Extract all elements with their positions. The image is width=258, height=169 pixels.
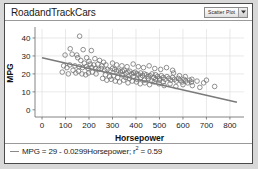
chart-plot-area: 0102030400100200300400500600700800Horsep… <box>5 21 252 143</box>
legend-equation-label: MPG = 29 - 0.0299Horsepower; r2 = 0.59 <box>22 147 162 156</box>
scatter-point <box>63 53 68 58</box>
legend-item-fit-line: MPG = 29 - 0.0299Horsepower; r2 = 0.59 <box>10 147 162 156</box>
x-axis-tick-label: 400 <box>129 121 143 130</box>
scatter-point <box>141 65 146 70</box>
line-swatch-icon <box>10 151 19 152</box>
scatter-point <box>158 67 163 72</box>
scatter-plot-svg[interactable]: 0102030400100200300400500600700800Horsep… <box>5 21 252 143</box>
scatter-point <box>93 56 98 61</box>
y-axis-tick-label: 20 <box>22 70 31 79</box>
scatter-point <box>131 62 136 67</box>
scatter-point <box>120 64 125 69</box>
page-title: RoadandTrackCars <box>11 7 96 18</box>
scatter-point <box>152 66 157 71</box>
scatter-point <box>81 47 86 52</box>
chart-header: RoadandTrackCars Scatter Plot <box>5 4 252 21</box>
x-axis-tick-label: 300 <box>106 121 120 130</box>
x-axis-title: Horsepower <box>115 133 165 143</box>
scatter-point <box>136 64 141 69</box>
scatter-point <box>89 48 94 53</box>
scatter-point <box>170 68 175 73</box>
chart-window: RoadandTrackCars Scatter Plot 0102030400… <box>4 3 253 164</box>
scatter-point <box>147 64 152 69</box>
scatter-point <box>195 79 200 84</box>
scatter-point <box>198 85 203 90</box>
scatter-point <box>75 53 80 58</box>
scatter-points-group <box>60 34 217 90</box>
y-axis-tick-label: 0 <box>26 106 31 115</box>
y-axis-tick-label: 40 <box>22 34 31 43</box>
scatter-point <box>201 81 206 86</box>
y-axis-tick-label: 30 <box>22 52 31 61</box>
chart-legend: MPG = 29 - 0.0299Horsepower; r2 = 0.59 <box>5 143 252 163</box>
x-axis-tick-label: 200 <box>82 121 96 130</box>
x-axis-tick-label: 600 <box>176 121 190 130</box>
scatter-point <box>171 71 176 76</box>
scatter-point <box>68 46 73 51</box>
scatter-point <box>71 68 76 73</box>
plot-type-selected-label: Scatter Plot <box>205 8 238 17</box>
x-axis-tick-label: 100 <box>59 121 73 130</box>
chevron-down-icon[interactable] <box>238 8 247 17</box>
y-axis-title: MPG <box>5 63 15 83</box>
x-axis-tick-label: 700 <box>200 121 214 130</box>
y-axis-tick-label: 10 <box>22 88 31 97</box>
legend-equation-prefix: MPG = 29 - 0.0299Horsepower; <box>22 147 133 156</box>
scatter-point <box>125 64 130 69</box>
scatter-point <box>105 67 110 72</box>
scatter-point <box>164 65 169 70</box>
plot-type-dropdown[interactable]: Scatter Plot <box>204 7 248 18</box>
scatter-point <box>138 81 143 86</box>
scatter-point <box>212 84 217 89</box>
x-axis-tick-label: 500 <box>153 121 167 130</box>
scatter-point <box>114 63 119 68</box>
legend-r2-value: = 0.59 <box>138 147 162 156</box>
x-axis-tick-label: 800 <box>223 121 237 130</box>
x-axis-tick-label: 0 <box>40 121 45 130</box>
